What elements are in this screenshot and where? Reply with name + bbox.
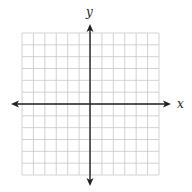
x-axis-label: x <box>177 97 184 111</box>
y-axis-label: y <box>85 5 93 19</box>
coordinate-plane: x y <box>0 0 192 192</box>
